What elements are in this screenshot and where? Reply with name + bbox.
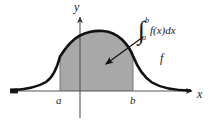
upper-limit-label-b: b	[130, 95, 136, 106]
integral-expression: ∫ b a f(x)dx	[138, 16, 176, 42]
lower-limit-label-a: a	[56, 95, 62, 106]
function-label-f: f	[160, 52, 163, 64]
y-axis-label: y	[74, 1, 79, 13]
integral-figure: y x a b f ∫ b a f(x)dx	[0, 0, 210, 126]
integral-integrand: f(x)dx	[150, 22, 176, 36]
figure-canvas	[0, 0, 210, 126]
x-axis-label: x	[197, 88, 202, 100]
integral-lower-limit: a	[142, 33, 146, 42]
integral-upper-limit: b	[145, 16, 149, 25]
integral-sign-group: ∫ b a	[138, 16, 147, 42]
